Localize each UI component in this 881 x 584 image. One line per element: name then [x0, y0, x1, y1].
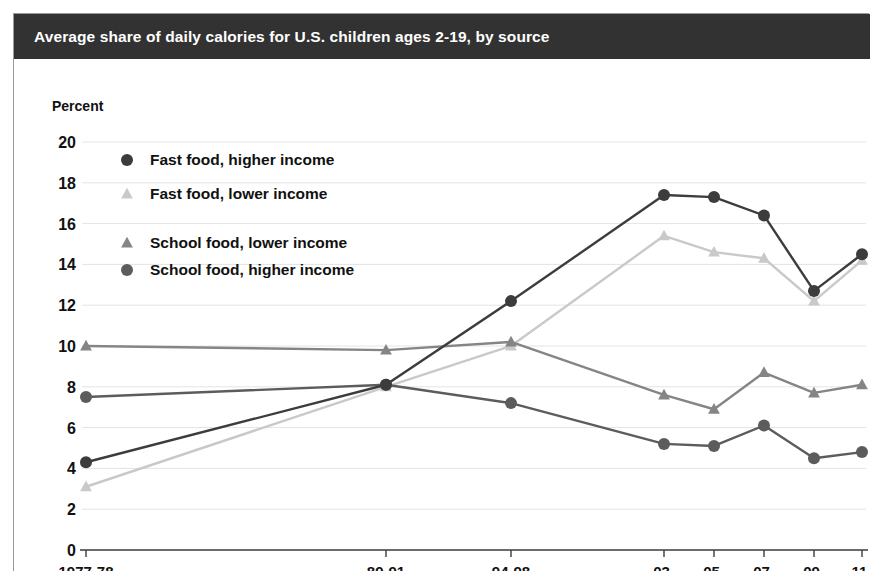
series-line: [86, 342, 862, 409]
data-point-circle: [658, 189, 670, 201]
y-axis-label: Percent: [52, 98, 104, 114]
chart-header-bar: Average share of daily calories for U.S.…: [14, 14, 870, 59]
y-tick-label: 10: [58, 338, 76, 355]
y-tick-label: 14: [58, 256, 76, 273]
data-point-circle: [708, 440, 720, 452]
x-tick-label: 05-: [703, 563, 725, 571]
y-tick-label: 18: [58, 175, 76, 192]
legend-label: School food, higher income: [150, 261, 354, 278]
x-tick-label: 03-: [653, 563, 675, 571]
data-point-circle: [856, 248, 868, 260]
legend-label: School food, lower income: [150, 234, 348, 251]
data-point-circle: [856, 446, 868, 458]
y-tick-label: 12: [58, 297, 76, 314]
y-tick-label: 4: [67, 460, 76, 477]
x-tick-label: 94-98: [492, 563, 530, 571]
y-axis-ticks: 02468101214161820: [58, 134, 76, 559]
data-point-triangle: [856, 379, 868, 390]
data-point-circle: [80, 391, 92, 403]
y-tick-label: 8: [67, 379, 76, 396]
data-point-circle: [758, 209, 770, 221]
data-point-circle: [505, 295, 517, 307]
legend-item[interactable]: Fast food, lower income: [121, 185, 328, 202]
legend-label: Fast food, higher income: [150, 151, 335, 168]
x-tick-label: 11-: [852, 563, 870, 571]
data-point-circle: [505, 397, 517, 409]
y-tick-label: 0: [67, 542, 76, 559]
series-fast-food-higher-income: [80, 189, 868, 468]
series-school-food-lower-income: [80, 336, 868, 414]
x-tick-label: 09-: [803, 563, 825, 571]
data-point-triangle: [758, 366, 770, 377]
data-point-circle: [808, 285, 820, 297]
legend-label: Fast food, lower income: [150, 185, 328, 202]
y-tick-label: 2: [67, 501, 76, 518]
x-tick-label: 1977-78: [58, 563, 113, 571]
legend-item[interactable]: Fast food, higher income: [121, 151, 335, 168]
data-point-circle: [708, 191, 720, 203]
data-point-triangle: [121, 188, 133, 199]
x-axis-ticks: 1977-7889-9194-9803-0405-0607-0809-1011-…: [58, 550, 870, 571]
chart-figure: Average share of daily calories for U.S.…: [13, 13, 869, 571]
data-point-circle: [121, 154, 133, 166]
plot-area: 02468101214161820 1977-7889-9194-9803-04…: [14, 59, 870, 571]
y-tick-label: 20: [58, 134, 76, 151]
data-point-circle: [121, 264, 133, 276]
legend-item[interactable]: School food, higher income: [121, 261, 354, 278]
series-school-food-higher-income: [80, 379, 868, 464]
page-title: Average share of daily calories for U.S.…: [14, 28, 550, 46]
legend-item[interactable]: School food, lower income: [121, 234, 347, 251]
line-chart: 02468101214161820 1977-7889-9194-9803-04…: [14, 59, 870, 571]
y-tick-label: 6: [67, 420, 76, 437]
data-point-circle: [658, 438, 670, 450]
chart-legend: Fast food, higher incomeFast food, lower…: [121, 151, 354, 278]
data-point-circle: [80, 456, 92, 468]
data-point-triangle: [121, 237, 133, 248]
data-point-circle: [758, 420, 770, 432]
data-point-circle: [808, 452, 820, 464]
data-point-triangle: [658, 230, 670, 241]
data-point-circle: [380, 379, 392, 391]
y-tick-label: 16: [58, 216, 76, 233]
x-tick-label: 07-: [753, 563, 775, 571]
x-tick-label: 89-91: [367, 563, 405, 571]
